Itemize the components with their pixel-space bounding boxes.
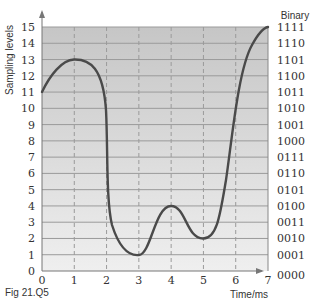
x-tick-label: 2	[103, 274, 110, 287]
binary-tick-label: 1100	[277, 70, 305, 83]
y-tick-label: 7	[28, 151, 35, 164]
chart: 0123456789101112131415 00000001001000110…	[0, 0, 311, 307]
y-tick-label: 15	[21, 21, 35, 34]
y-axis-arrow-icon	[39, 10, 45, 18]
y-tick-label: 12	[21, 70, 35, 83]
binary-tick-label: 1101	[277, 54, 305, 67]
binary-tick-labels: 0000000100100011010001010110011110001001…	[277, 21, 305, 282]
x-tick-label: 5	[200, 274, 207, 287]
x-tick-label: 0	[39, 274, 46, 287]
binary-tick-label: 0011	[277, 216, 305, 229]
binary-tick-label: 1000	[277, 135, 305, 148]
x-tick-label: 6	[232, 274, 239, 287]
y-tick-label: 5	[28, 184, 35, 197]
y-tick-labels: 0123456789101112131415	[21, 21, 35, 278]
binary-axis-label: Binary	[281, 10, 309, 21]
y-tick-label: 6	[28, 167, 35, 180]
y-tick-label: 2	[28, 232, 35, 245]
plot-area	[42, 27, 268, 271]
x-tick-label: 1	[71, 274, 78, 287]
y-tick-label: 9	[28, 119, 35, 132]
x-tick-label: 3	[135, 274, 142, 287]
x-tick-label: 7	[265, 274, 272, 287]
y-tick-label: 14	[21, 37, 35, 50]
y-tick-label: 3	[28, 216, 35, 229]
binary-tick-label: 0100	[277, 200, 305, 213]
y-tick-label: 4	[28, 200, 35, 213]
y-tick-label: 1	[28, 249, 35, 262]
y-axis-label: Sampling levels	[4, 25, 15, 95]
binary-tick-label: 1010	[277, 102, 305, 115]
binary-tick-label: 0101	[277, 184, 305, 197]
binary-tick-label: 1110	[277, 37, 305, 50]
x-tick-labels: 01234567	[39, 274, 272, 287]
binary-tick-label: 1001	[277, 119, 305, 132]
binary-tick-label: 0000	[277, 269, 305, 282]
binary-tick-label: 0010	[277, 232, 305, 245]
binary-tick-label: 0110	[277, 167, 305, 180]
binary-tick-label: 0001	[277, 249, 305, 262]
binary-tick-label: 1111	[277, 21, 305, 34]
x-tick-label: 4	[168, 274, 175, 287]
y-tick-label: 11	[21, 86, 35, 99]
y-tick-label: 13	[21, 54, 35, 67]
binary-tick-label: 1011	[277, 86, 305, 99]
binary-tick-label: 0111	[277, 151, 305, 164]
figure-caption: Fig 21.Q5	[5, 287, 49, 298]
x-axis-label: Time/ms	[230, 289, 268, 300]
y-tick-label: 8	[28, 135, 35, 148]
y-tick-label: 0	[28, 265, 35, 278]
y-tick-label: 10	[21, 102, 35, 115]
